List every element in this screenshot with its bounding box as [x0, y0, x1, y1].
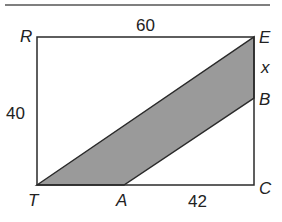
vertex-label-E: E [259, 28, 271, 47]
vertex-label-C: C [259, 179, 272, 198]
vertex-label-B: B [259, 90, 270, 109]
measure-EB-x: x [260, 58, 270, 77]
vertex-label-A: A [115, 191, 127, 210]
measure-RE: 60 [136, 16, 155, 35]
vertex-label-T: T [28, 191, 40, 210]
geometry-figure: R E B C T A 60 40 42 x [0, 0, 282, 222]
shaded-parallelogram-TEBA [37, 37, 254, 185]
vertex-label-R: R [20, 27, 32, 46]
measure-AC: 42 [188, 192, 207, 211]
measure-RT: 40 [6, 104, 25, 123]
